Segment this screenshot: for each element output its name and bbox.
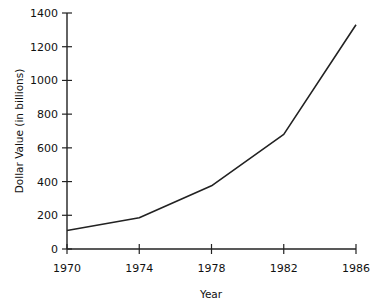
y-tick-label: 800 (37, 108, 58, 121)
y-tick-label: 400 (37, 176, 58, 189)
x-axis-title: Year (199, 288, 223, 300)
x-tick-label: 1970 (53, 262, 81, 275)
y-tick-label: 1200 (30, 41, 58, 54)
y-axis: 0200400600800100012001400 (30, 7, 72, 256)
y-tick-label: 200 (37, 209, 58, 222)
line-chart: 0200400600800100012001400 19701974197819… (0, 0, 378, 308)
y-tick-label: 600 (37, 142, 58, 155)
x-axis: 19701974197819821986 (53, 244, 370, 275)
y-tick-label: 1000 (30, 74, 58, 87)
x-tick-label: 1974 (125, 262, 153, 275)
data-line (67, 25, 356, 231)
y-tick-label: 1400 (30, 7, 58, 20)
y-tick-label: 0 (51, 243, 58, 256)
x-tick-label: 1982 (270, 262, 298, 275)
x-tick-label: 1986 (342, 262, 370, 275)
x-tick-label: 1978 (198, 262, 226, 275)
y-axis-title: Dollar Value (in billions) (13, 69, 25, 194)
